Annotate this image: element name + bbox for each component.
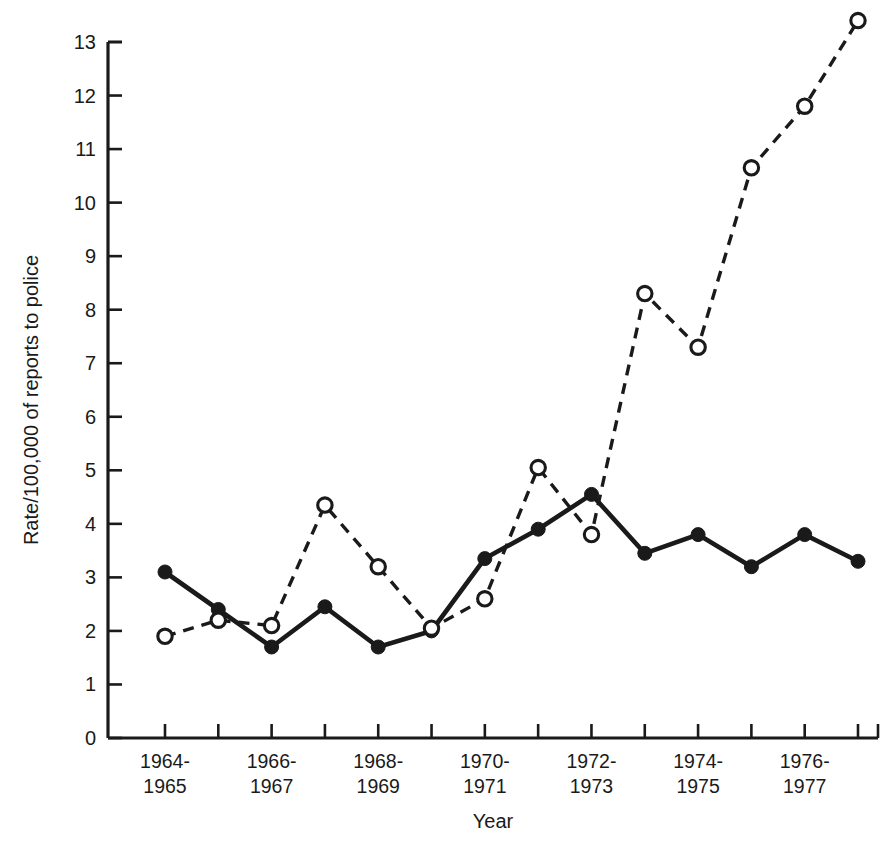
- data-point-dashed-open-circles-5: [371, 560, 385, 574]
- x-tick-label-1971-bottom: 1971: [463, 775, 506, 797]
- y-tick-label-7: 7: [85, 352, 96, 374]
- x-tick-label-1976-top: 1976-: [780, 750, 830, 772]
- data-point-dashed-open-circles-11: [691, 340, 705, 354]
- y-tick-label-11: 11: [75, 138, 96, 160]
- x-tick-label-1965-bottom: 1965: [143, 775, 187, 797]
- x-tick-label-1969-bottom: 1969: [357, 775, 400, 797]
- y-tick-label-2: 2: [85, 620, 96, 642]
- y-tick-label-12: 12: [74, 85, 96, 107]
- x-axis-ticks: [165, 724, 858, 738]
- data-point-dashed-open-circles-9: [584, 527, 598, 541]
- data-point-dashed-open-circles-8: [531, 460, 545, 474]
- data-point-dashed-open-circles-6: [424, 621, 438, 635]
- y-tick-label-9: 9: [85, 245, 96, 267]
- chart-figure: Rate/100,000 of reports to police 012345…: [0, 0, 887, 851]
- y-axis-title: Rate/100,000 of reports to police: [20, 255, 42, 545]
- y-tick-label-10: 10: [74, 192, 96, 214]
- y-tick-label-5: 5: [85, 459, 96, 481]
- data-point-dashed-open-circles-1: [158, 629, 172, 643]
- data-point-dashed-open-circles-2: [211, 613, 225, 627]
- data-point-solid-filled-circles-7: [478, 552, 492, 566]
- data-series-layer: [158, 13, 865, 654]
- data-point-solid-filled-circles-12: [744, 560, 758, 574]
- data-point-solid-filled-circles-5: [371, 640, 385, 654]
- data-point-dashed-open-circles-7: [478, 592, 492, 606]
- data-point-dashed-open-circles-3: [264, 618, 278, 632]
- x-tick-label-1970-top: 1970-: [460, 750, 510, 772]
- data-point-dashed-open-circles-4: [318, 498, 332, 512]
- y-axis-ticks: 012345678910111213: [74, 31, 122, 749]
- data-point-solid-filled-circles-4: [318, 600, 332, 614]
- x-axis-tick-labels: 1964-19651966-19671968-19691970-19711972…: [140, 750, 830, 797]
- data-point-solid-filled-circles-8: [531, 522, 545, 536]
- data-point-solid-filled-circles-13: [798, 528, 812, 542]
- x-tick-label-1966-top: 1966-: [247, 750, 297, 772]
- data-point-dashed-open-circles-12: [744, 161, 758, 175]
- y-tick-label-6: 6: [85, 406, 96, 428]
- x-tick-label-1964-top: 1964-: [140, 750, 190, 772]
- x-tick-label-1977-bottom: 1977: [783, 775, 826, 797]
- x-tick-label-1972-top: 1972-: [567, 750, 617, 772]
- x-tick-label-1974-top: 1974-: [673, 750, 723, 772]
- x-tick-label-1973-bottom: 1973: [570, 775, 613, 797]
- y-tick-label-8: 8: [85, 299, 96, 321]
- data-point-solid-filled-circles-14: [851, 554, 865, 568]
- data-point-solid-filled-circles-11: [691, 528, 705, 542]
- data-point-dashed-open-circles-13: [798, 99, 812, 113]
- x-tick-label-1967-bottom: 1967: [250, 775, 293, 797]
- x-tick-label-1968-top: 1968-: [353, 750, 403, 772]
- y-tick-label-1: 1: [85, 673, 96, 695]
- y-tick-label-13: 13: [74, 31, 96, 53]
- y-tick-label-0: 0: [85, 727, 96, 749]
- x-axis-title: Year: [473, 810, 514, 832]
- data-point-solid-filled-circles-10: [638, 546, 652, 560]
- data-point-dashed-open-circles-10: [638, 286, 652, 300]
- data-point-solid-filled-circles-3: [265, 640, 279, 654]
- data-point-dashed-open-circles-14: [851, 13, 865, 27]
- data-point-solid-filled-circles-9: [585, 487, 599, 501]
- y-tick-label-4: 4: [85, 513, 96, 535]
- y-tick-label-3: 3: [85, 566, 96, 588]
- line-chart-canvas: Rate/100,000 of reports to police 012345…: [0, 0, 887, 851]
- data-point-solid-filled-circles-1: [158, 565, 172, 579]
- x-tick-label-1975-bottom: 1975: [676, 775, 720, 797]
